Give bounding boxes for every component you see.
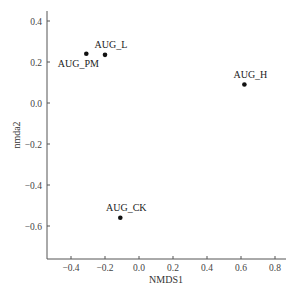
data-point: AUG_L <box>95 39 128 57</box>
point-marker <box>118 216 123 221</box>
x-tick-label: 0.0 <box>133 263 145 273</box>
data-point: AUG_CK <box>106 202 147 220</box>
x-tick-label: −0.2 <box>96 263 113 273</box>
y-tick-label: 0.4 <box>30 17 42 27</box>
axes <box>47 11 286 259</box>
x-tick-label: 0.4 <box>201 263 213 273</box>
y-tick-label: −0.4 <box>25 181 42 191</box>
point-label: AUG_CK <box>106 202 147 213</box>
data-points: AUG_PMAUG_LAUG_HAUG_CK <box>58 39 268 220</box>
y-axis-title: nmda2 <box>11 121 22 148</box>
point-label: AUG_L <box>95 39 128 50</box>
x-tick-label: −0.4 <box>62 263 79 273</box>
axis-frame <box>47 11 286 259</box>
data-point: AUG_PM <box>58 52 99 69</box>
x-axis-title: NMDS1 <box>149 274 183 285</box>
y-tick-label: 0.2 <box>30 58 42 68</box>
x-tick-label: 0.8 <box>269 263 281 273</box>
x-tick-label: 0.6 <box>235 263 247 273</box>
y-axis-ticks: 0.40.20.0−0.2−0.4−0.6 <box>25 17 50 232</box>
x-tick-label: 0.2 <box>167 263 179 273</box>
point-marker <box>84 52 89 57</box>
point-marker <box>103 53 108 58</box>
data-point: AUG_H <box>233 69 267 87</box>
y-tick-label: −0.6 <box>25 222 42 232</box>
nmds-scatter-chart: −0.4−0.20.00.20.40.60.8 0.40.20.0−0.2−0.… <box>0 0 296 297</box>
y-tick-label: −0.2 <box>25 140 42 150</box>
point-marker <box>242 82 247 87</box>
y-tick-label: 0.0 <box>30 99 42 109</box>
point-label: AUG_PM <box>58 58 99 69</box>
point-label: AUG_H <box>233 69 267 80</box>
